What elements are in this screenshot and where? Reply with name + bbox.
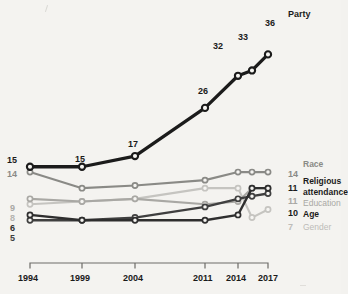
legend-label-gender: Gender	[303, 223, 331, 232]
data-point	[132, 218, 137, 223]
data-point	[249, 215, 254, 220]
data-point	[249, 67, 255, 73]
data-point	[27, 196, 32, 201]
data-point	[265, 170, 270, 175]
data-point	[79, 199, 84, 204]
data-point	[132, 196, 137, 201]
right-value-gender: 7	[288, 223, 293, 232]
data-point	[265, 191, 270, 196]
data-point	[79, 164, 85, 170]
legend-label-race: Race	[303, 160, 323, 169]
party-point-label-2004: 17	[128, 140, 138, 149]
data-point	[265, 207, 270, 212]
data-point	[27, 212, 32, 217]
data-point	[79, 218, 84, 223]
data-point	[265, 186, 270, 191]
series-religious-attendance	[27, 186, 270, 223]
x-tick-label-2014: 2014	[226, 274, 246, 283]
data-point	[235, 196, 240, 201]
left-value-label-age: 5	[10, 234, 15, 243]
x-tick-label-2011: 2011	[193, 274, 213, 283]
data-point	[202, 204, 207, 209]
data-point	[27, 202, 32, 207]
party-point-label-2011: 26	[198, 87, 208, 96]
legend-label-education: Education	[303, 199, 341, 208]
data-point	[249, 170, 254, 175]
left-value-label-religious: 6	[10, 224, 15, 233]
party-point-label-2015: 33	[238, 33, 248, 42]
x-axis-line	[30, 263, 268, 268]
paper-speck	[300, 285, 306, 286]
data-point	[202, 186, 207, 191]
left-value-label-party: 15	[7, 156, 17, 165]
data-point	[27, 164, 33, 170]
x-tick-label-1999: 1999	[70, 274, 90, 283]
series-party	[27, 51, 271, 170]
data-point	[249, 194, 254, 199]
right-value-age: 10	[288, 209, 298, 218]
data-point	[202, 218, 207, 223]
legend-label-religious-cont: attendance	[303, 188, 348, 197]
data-point	[202, 105, 208, 111]
data-point	[235, 73, 241, 79]
legend-label-religious: Religious	[303, 177, 341, 186]
legend-label-age: Age	[303, 210, 319, 219]
left-value-label-race: 14	[7, 170, 17, 179]
data-point	[202, 178, 207, 183]
left-value-label-gender: 8	[10, 214, 15, 223]
data-point	[79, 186, 84, 191]
x-tick-label-2017: 2017	[258, 274, 278, 283]
left-value-label-education: 9	[10, 204, 15, 213]
party-point-label-1999: 15	[75, 155, 85, 164]
party-point-label-2017: 36	[265, 19, 275, 28]
series-line	[30, 54, 268, 166]
data-point	[235, 212, 240, 217]
data-point	[265, 51, 271, 57]
right-value-race: 14	[288, 170, 298, 179]
series-layer	[27, 51, 271, 223]
x-tick-label-2004: 2004	[123, 274, 143, 283]
x-tick-label-1994: 1994	[18, 274, 38, 283]
data-point	[235, 170, 240, 175]
party-point-label-2014: 32	[213, 42, 223, 51]
right-value-education: 11	[288, 197, 298, 206]
data-point	[27, 218, 32, 223]
data-point	[235, 186, 240, 191]
right-value-religious: 11	[288, 184, 298, 193]
data-point	[249, 186, 254, 191]
data-point	[132, 183, 137, 188]
series-line	[30, 172, 268, 188]
data-point	[132, 153, 138, 159]
series-title-party: Party	[288, 10, 311, 19]
